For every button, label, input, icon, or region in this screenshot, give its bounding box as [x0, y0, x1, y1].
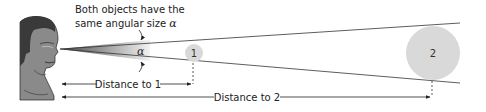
angle-indicator: α — [137, 30, 145, 72]
angular-size-diagram: α Both objects have the same angular siz… — [0, 0, 486, 112]
distance-2-arrow: Distance to 2 — [62, 92, 430, 103]
angle-alpha-label: α — [137, 45, 145, 58]
observer-face-icon — [20, 16, 58, 100]
sight-cone — [60, 23, 460, 83]
caption-line-2: same angular size α — [75, 17, 177, 30]
object-1-label: 1 — [191, 48, 197, 59]
object-1: 1 — [185, 44, 203, 84]
object-2: 2 — [406, 26, 460, 97]
caption-line-1: Both objects have the — [75, 4, 185, 15]
object-2-label: 2 — [430, 48, 436, 59]
distance-1-label: Distance to 1 — [95, 79, 161, 90]
distance-1-arrow: Distance to 1 — [62, 79, 191, 90]
distance-2-label: Distance to 2 — [214, 92, 280, 103]
